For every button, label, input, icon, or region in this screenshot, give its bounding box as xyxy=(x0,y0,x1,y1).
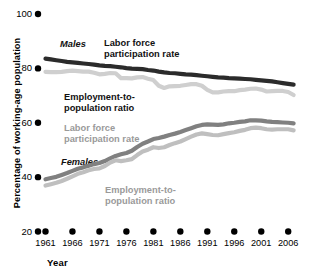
y-axis-markers xyxy=(35,11,41,235)
x-axis-dot xyxy=(123,228,129,234)
x-axis-dot xyxy=(258,228,264,234)
series-lines xyxy=(46,59,294,186)
x-axis-markers xyxy=(42,228,291,234)
x-axis-dot xyxy=(285,228,291,234)
x-axis-dot xyxy=(177,228,183,234)
plot-area xyxy=(0,0,315,278)
y-axis-dot xyxy=(35,65,41,71)
x-axis-dot xyxy=(42,228,48,234)
chart-figure: Percentage of working-age population Yea… xyxy=(0,0,315,278)
y-axis-dot xyxy=(35,120,41,126)
x-axis-dot xyxy=(231,228,237,234)
y-axis-dot xyxy=(35,228,41,234)
x-axis-dot xyxy=(96,228,102,234)
y-axis-dot xyxy=(35,174,41,180)
x-axis-dot xyxy=(150,228,156,234)
x-axis-dot xyxy=(69,228,75,234)
x-axis-dot xyxy=(204,228,210,234)
y-axis-dot xyxy=(35,11,41,17)
